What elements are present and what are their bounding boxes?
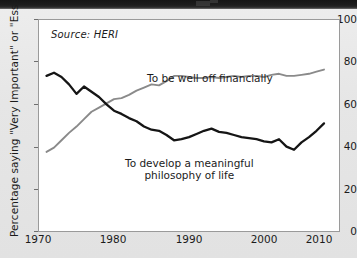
plot-area: Source: HERI To be well off financially …: [38, 19, 340, 232]
line-philosophy: [47, 73, 325, 150]
x-tick-label-1990: 1990: [165, 233, 213, 245]
series-lines: [39, 20, 339, 231]
scan-top-band: [0, 0, 357, 9]
source-note: Source: HERI: [51, 29, 118, 40]
y-axis-title: Percentage saying "Very Important" or "E…: [8, 17, 20, 237]
series-label-philosophy: To develop a meaningful philosophy of li…: [125, 157, 254, 181]
series-label-philosophy-line2: philosophy of life: [144, 169, 234, 181]
series-label-wealth: To be well off financially: [147, 72, 273, 84]
x-tick-label-2000: 2000: [240, 233, 288, 245]
x-tick-label-1970: 1970: [14, 233, 62, 245]
x-tick-label-2010: 2010: [295, 233, 343, 245]
x-tick-label-1980: 1980: [89, 233, 137, 245]
chart-figure: Percentage saying "Very Important" or "E…: [0, 9, 357, 258]
page-background: Percentage saying "Very Important" or "E…: [0, 0, 357, 258]
series-label-philosophy-line1: To develop a meaningful: [125, 157, 254, 169]
